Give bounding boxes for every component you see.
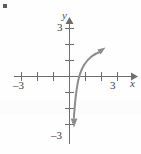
logarithmic-curve bbox=[74, 51, 102, 117]
y-tick-label-neg3: –3 bbox=[51, 130, 62, 141]
x-tick-label-neg3: –3 bbox=[13, 80, 24, 91]
coordinate-plane bbox=[0, 0, 141, 154]
graph-figure: y x 3 –3 –3 3 bbox=[0, 0, 141, 154]
curve-arrowhead-down bbox=[71, 119, 78, 128]
x-axis-label: x bbox=[130, 78, 135, 89]
x-tick-label-3: 3 bbox=[110, 80, 116, 91]
curve-arrowhead-up bbox=[98, 48, 106, 55]
y-tick-label-3: 3 bbox=[57, 22, 63, 33]
y-axis-label: y bbox=[62, 10, 67, 21]
